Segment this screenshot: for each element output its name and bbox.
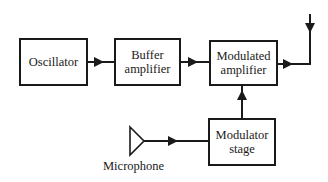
connections-layer [0,0,328,182]
oscillator-block: Oscillator [19,38,88,86]
microphone-label: Microphone [103,159,164,174]
buffer-amplifier-block: Buffer amplifier [114,38,181,86]
arrowhead-icon [94,57,104,67]
buffer-amplifier-label: Buffer amplifier [125,48,171,76]
modulated-amplifier-block: Modulated amplifier [209,40,278,86]
modulator-stage-block: Modulator stage [208,118,276,166]
arrowhead-icon [188,57,198,67]
microphone-icon [130,127,144,155]
arrowhead-icon [168,136,178,146]
oscillator-label: Oscillator [29,55,78,69]
arrowhead-down-icon [305,23,315,33]
arrowhead-up-icon [237,90,247,100]
modulated-amplifier-label: Modulated amplifier [216,49,270,77]
modulator-stage-label: Modulator stage [216,128,269,156]
arrowhead-icon [283,59,293,69]
arrow-modulated-to-output [277,14,310,64]
